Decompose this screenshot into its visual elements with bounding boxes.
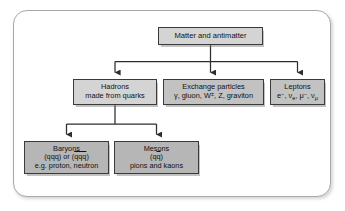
node-hadrons[interactable]: Hadrons made from quarks [73,79,157,105]
node-hadrons-line2: made from quarks [85,92,145,101]
symbol-gluon: gluon, [182,92,202,101]
symbol-qqq-open: (qqq) or ( [44,152,74,161]
node-exchange-line1: Exchange particles [182,83,244,92]
symbol-nu-mu: , ν [307,92,315,101]
node-leptons-line2: e−, νe, μ−, νμ [277,91,318,101]
symbol-z-graviton: , Z, graviton [214,92,253,101]
node-leptons-line1: Leptons [284,83,310,92]
node-matter-and-antimatter[interactable]: Matter and antimatter [158,27,263,45]
node-mesons-line3: pions and kaons [130,162,183,170]
node-baryons[interactable]: Baryons (qqq) or (qqq) e.g. proton, neut… [24,141,109,174]
symbol-qqq-close: ) [86,152,88,161]
diagram-canvas: Matter and antimatter Hadrons made from … [0,0,345,211]
node-exchange-line2: γ, gluon, W±, Z, graviton [174,91,253,101]
node-root-label: Matter and antimatter [174,32,246,41]
node-mesons[interactable]: Mesons (qq) pions and kaons [114,141,199,174]
node-leptons[interactable]: Leptons e−, νe, μ−, νμ [270,79,325,105]
node-baryons-line3: e.g. proton, neutron [35,162,99,170]
node-exchange-particles[interactable]: Exchange particles γ, gluon, W±, Z, grav… [163,79,264,105]
symbol-nu-mu-sub: μ [315,95,318,101]
symbol-w-boson: W [204,92,211,101]
symbol-qq-close: ) [161,152,163,161]
symbol-muon: , μ [295,92,303,101]
symbol-gamma: γ, [174,92,180,101]
